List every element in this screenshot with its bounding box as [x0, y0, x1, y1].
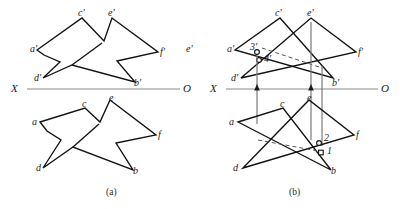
label-a-frontal-bprime: b': [134, 78, 141, 88]
diagram-b-point-marker-2: [317, 141, 322, 146]
diagram-b-horizontal-triangle-def: [243, 100, 354, 168]
label-b-frontal-dprime: d': [231, 73, 238, 83]
label-b-frontal-eprime: e': [307, 8, 314, 18]
caption-a: (a): [106, 188, 117, 198]
diagram-a-horizontal-outline: [40, 100, 156, 170]
label-b-point-4prime: 4': [264, 54, 271, 64]
caption-b: (b): [289, 188, 300, 198]
label-b-point-1: 1: [327, 146, 332, 156]
technical-drawing-figure: [0, 0, 400, 209]
diagram-b-projector-lines: [254, 22, 322, 146]
label-a-horizontal-d: d: [36, 163, 41, 173]
label-b-horizontal-c: c: [280, 99, 284, 109]
label-a-horizontal-e: e: [109, 93, 113, 103]
label-a-frontal-cprime: c': [78, 8, 85, 18]
label-a-frontal-aprime: a': [30, 44, 37, 54]
label-b-horizontal-e: e: [307, 93, 311, 103]
diagram-b-frontal-triangle-def: [241, 18, 356, 78]
label-b-frontal-cprime: c': [275, 8, 282, 18]
axis-label-x-b: X: [210, 83, 217, 94]
axis-label-o-b: O: [381, 83, 389, 94]
axis-label-o-a: O: [183, 83, 191, 94]
label-b-frontal-bprime: b': [332, 78, 339, 88]
label-b-horizontal-f: f: [356, 130, 359, 140]
axis-label-x-a: X: [11, 83, 18, 94]
label-b-horizontal-d: d: [233, 163, 238, 173]
label-a-horizontal-b: b: [133, 166, 138, 176]
label-a-horizontal-a: a: [32, 117, 37, 127]
label-b-horizontal-a: a: [229, 117, 234, 127]
diagram-b-point-marker-1: [319, 150, 324, 155]
label-a-horizontal-c: c: [82, 99, 86, 109]
label-b-frontal-fprime: f': [358, 47, 363, 57]
label-b-frontal-aprime: a': [227, 44, 234, 54]
label-b-horizontal-b: b: [331, 166, 336, 176]
label-a-frontal-eprime: e': [108, 8, 115, 18]
diagram-a-frontal-outline: [37, 18, 158, 82]
label-a-frontal-dprime: d': [34, 73, 41, 83]
label-b-point-3prime: 3': [250, 42, 257, 52]
label-b-point-2: 2: [324, 133, 329, 143]
label-a-horizontal-f: f: [158, 130, 161, 140]
diagram-b-horizontal-triangle-acb: [238, 108, 331, 170]
label-a-stray-eprime: e': [186, 44, 193, 54]
label-a-frontal-fprime: f': [160, 47, 165, 57]
